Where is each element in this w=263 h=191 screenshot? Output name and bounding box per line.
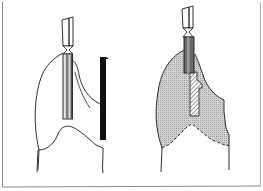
- groove-line: [75, 72, 90, 108]
- matrix-strip: [100, 57, 106, 140]
- cylindrical-bur: [63, 54, 73, 119]
- left-panel: [35, 17, 108, 173]
- bur-handpiece-right: [182, 6, 193, 37]
- figure-frame: [3, 2, 262, 187]
- cylindrical-bur-right: [184, 37, 194, 73]
- dental-diagram: [0, 0, 263, 191]
- root-line-left: [161, 148, 162, 172]
- bur-handpiece: [62, 17, 73, 54]
- right-panel: [156, 6, 229, 172]
